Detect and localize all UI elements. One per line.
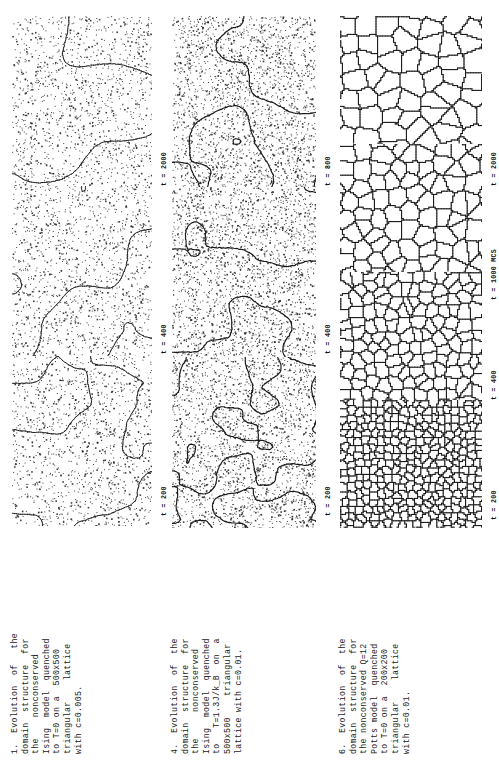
figure-6-image-panel (340, 16, 482, 528)
figure-column-2: t = 800 t = 400 t = 200 4. Evolution of … (160, 0, 332, 766)
figure-6-canvas (340, 16, 482, 528)
figure-page: t = 2000 t = 400 t = 200 1. Evolution of… (0, 0, 499, 766)
figure-6-time-label-1: t = 1000 MCS (491, 249, 498, 300)
figure-column-1: t = 2000 t = 400 t = 200 1. Evolution of… (0, 0, 168, 766)
figure-6-time-label-3: t = 200 (491, 490, 498, 520)
figure-1-image-panel (12, 16, 152, 526)
figure-column-3: t = 2000 t = 1000 MCS t = 400 t = 200 6.… (330, 0, 499, 766)
figure-6-time-label-2: t = 400 (491, 370, 498, 400)
figure-6-time-label-0: t = 2000 (491, 152, 498, 186)
figure-4-image-panel (172, 16, 316, 528)
figure-1-canvas (12, 16, 152, 526)
figure-1-caption: 1. Evolution of the domain structure for… (10, 554, 84, 754)
figure-4-caption: 4. Evolution of the domain structure for… (170, 554, 244, 754)
figure-6-caption: 6. Evolution of the domain structure for… (338, 554, 412, 754)
figure-4-canvas (172, 16, 316, 528)
